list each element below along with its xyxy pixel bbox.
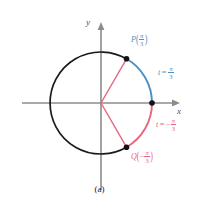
- point-q-label: Q ( − π 3 ): [131, 150, 153, 165]
- axes-group: [22, 22, 180, 190]
- point-q-marker: [124, 144, 130, 150]
- positive-arc-denominator: 3: [168, 72, 173, 80]
- point-q-close-paren: ): [150, 151, 153, 163]
- radius-segment-to-p: [101, 59, 127, 103]
- positive-arc-fraction: π 3: [168, 66, 173, 81]
- point-p-marker: [124, 56, 130, 62]
- point-p-numerator: π: [139, 33, 144, 40]
- figure-canvas: [0, 0, 199, 202]
- positive-arc-label: t = π 3: [158, 66, 174, 81]
- positive-arc-equals: =: [160, 69, 168, 77]
- point-p-label: P ( π 3 ): [131, 33, 148, 48]
- point-q-numerator: π: [144, 150, 149, 157]
- negative-arc-fraction: π 3: [171, 118, 176, 133]
- positive-arc-numerator: π: [168, 66, 173, 73]
- negative-arc-denominator: 3: [171, 124, 176, 132]
- point-q-denominator: 3: [144, 156, 149, 164]
- negative-arc-label: t = − π 3: [156, 118, 177, 133]
- negative-arc-minus-sign: −: [166, 121, 171, 129]
- negative-arc-equals: =: [158, 121, 166, 129]
- x-axis-label: x: [177, 107, 181, 116]
- y-axis-arrowhead: [98, 22, 105, 30]
- y-axis-label: y: [86, 18, 90, 27]
- point-q-fraction: π 3: [144, 150, 149, 165]
- negative-arc-minus-pi-over-3: [127, 103, 153, 147]
- negative-arc-numerator: π: [171, 118, 176, 125]
- point-q-minus-sign: −: [139, 153, 144, 161]
- positive-arc-pi-over-3: [127, 59, 153, 103]
- radius-segment-to-q: [101, 103, 127, 147]
- point-q-open-paren: (: [137, 151, 140, 163]
- point-p-denominator: 3: [139, 39, 144, 47]
- unit-circle-figure: y x P ( π 3 ) t = π 3 t = −: [0, 0, 199, 202]
- point-p-close-paren: ): [145, 34, 148, 46]
- point-p-fraction: π 3: [139, 33, 144, 48]
- point-initial-marker: [149, 100, 155, 106]
- figure-caption: (a): [0, 184, 199, 194]
